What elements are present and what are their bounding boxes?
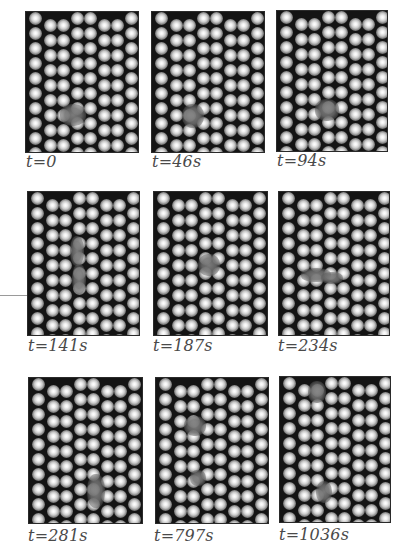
lattice-particle [322, 41, 335, 54]
lattice-particle [335, 41, 348, 54]
vacancy-defect [308, 381, 326, 403]
lattice-particle [379, 422, 391, 435]
lattice-particle [251, 57, 264, 70]
lattice-particle [114, 385, 127, 398]
lattice-particle [87, 408, 100, 421]
lattice-particle [100, 229, 113, 242]
frame-label-6: t=234s [278, 336, 338, 355]
lattice-particle [237, 64, 250, 77]
lattice-particle [159, 513, 172, 524]
lattice-particle [31, 282, 44, 295]
lattice-particle [228, 475, 241, 488]
lattice-particle [114, 505, 127, 518]
lattice-particle [185, 244, 198, 257]
lattice-particle [157, 297, 170, 310]
lattice-particle [255, 393, 268, 406]
lattice-particle [59, 229, 72, 242]
lattice-particle [71, 132, 84, 145]
lattice-particle [351, 214, 364, 227]
lattice-particle [298, 489, 311, 502]
lattice-particle [253, 312, 266, 325]
lattice-particle [46, 334, 59, 335]
lattice-particle [59, 274, 72, 287]
lattice-particle [226, 319, 239, 332]
lattice-particle [376, 56, 388, 69]
lattice-particle [308, 48, 321, 61]
lattice-particle [170, 94, 183, 107]
lattice-particle [308, 123, 321, 136]
lattice-particle [172, 334, 185, 335]
lattice-particle [338, 377, 351, 390]
lattice-particle [127, 282, 140, 295]
lattice-particle [155, 102, 168, 115]
lattice-particle [31, 207, 44, 220]
lattice-particle [29, 72, 42, 85]
lattice-particle [73, 312, 86, 325]
lattice-particle [74, 393, 87, 406]
lattice-particle [298, 444, 311, 457]
lattice-particle [310, 199, 323, 212]
lattice-particle [379, 392, 391, 405]
lattice-particle [297, 244, 310, 257]
lattice-particle [201, 498, 214, 511]
lattice-particle [185, 259, 198, 272]
lattice-particle [31, 312, 44, 325]
lattice-particle [351, 319, 364, 332]
lattice-particle [128, 423, 141, 436]
lattice-particle [197, 42, 210, 55]
lattice-particle [174, 445, 187, 458]
lattice-particle [183, 139, 196, 152]
lattice-particle [44, 124, 57, 137]
lattice-particle [324, 312, 337, 325]
lattice-particle [100, 304, 113, 317]
lattice-particle [73, 327, 86, 336]
lattice-particle [86, 282, 99, 295]
lattice-particle [170, 124, 183, 137]
lattice-particle [100, 259, 113, 272]
lattice-particle [251, 87, 264, 100]
lattice-particle [187, 400, 200, 413]
lattice-particle [128, 378, 141, 391]
lattice-particle [210, 27, 223, 40]
lattice-particle [183, 34, 196, 47]
lattice-particle [352, 429, 365, 442]
lattice-particle [352, 444, 365, 457]
lattice-particle [31, 297, 44, 310]
lattice-particle [111, 94, 124, 107]
lattice-particle [298, 474, 311, 487]
lattice-particle [376, 86, 388, 99]
lattice-particle [335, 56, 348, 69]
lattice-particle [74, 453, 87, 466]
lattice-particle [379, 497, 391, 510]
lattice-particle [349, 138, 362, 151]
lattice-particle [101, 505, 114, 518]
lattice-particle [322, 56, 335, 69]
lattice-particle [197, 87, 210, 100]
frame-label-7: t=281s [28, 526, 88, 545]
lattice-particle [311, 444, 324, 457]
lattice-particle [295, 33, 308, 46]
lattice-particle [228, 385, 241, 398]
lattice-particle [255, 453, 268, 466]
lattice-particle [125, 102, 138, 115]
lattice-particle [338, 392, 351, 405]
lattice-particle [84, 132, 97, 145]
lattice-particle [201, 453, 214, 466]
lattice-particle [128, 453, 141, 466]
lattice-particle [337, 207, 350, 220]
lattice-particle [73, 297, 86, 310]
lattice-particle [113, 274, 126, 287]
lattice-particle [59, 199, 72, 212]
lattice-particle [228, 460, 241, 473]
lattice-particle [376, 41, 388, 54]
lattice-particle [310, 214, 323, 227]
lattice-particle [127, 327, 140, 336]
vacancy-defect [70, 236, 84, 266]
lattice-particle [376, 116, 388, 129]
frame-label-5: t=187s [153, 336, 213, 355]
lattice-particle [351, 304, 364, 317]
lattice-particle [338, 467, 351, 480]
lattice-particle [255, 378, 268, 391]
lattice-particle [214, 438, 227, 451]
lattice-particle [335, 86, 348, 99]
